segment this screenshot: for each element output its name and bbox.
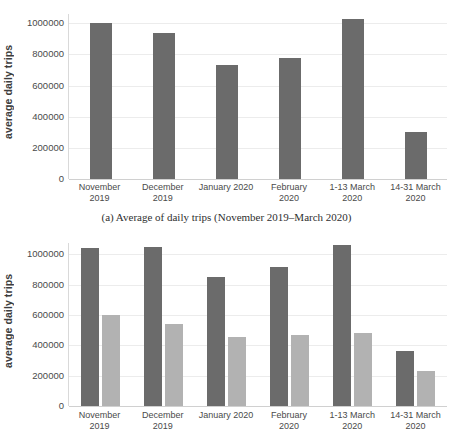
chart-b-bar (417, 371, 435, 406)
chart-a-y-tick: 600000 (32, 81, 64, 91)
chart-a-y-axis-title: average daily trips (2, 22, 18, 162)
chart-b-y-tick: 1000000 (27, 250, 64, 260)
chart-a-bar (279, 58, 301, 179)
chart-b-y-tick: 200000 (32, 371, 64, 381)
chart-b-bar (102, 315, 120, 406)
chart-b-y-tick-labels: 02000004000006000008000001000000 (18, 243, 64, 406)
chart-a-bar (216, 65, 238, 179)
chart-a-x-tick-label: 1-13 March 2020 (321, 182, 384, 204)
chart-b-bar (333, 245, 351, 406)
chart-a-y-tick: 0 (59, 174, 64, 184)
chart-b-y-tick: 0 (59, 401, 64, 411)
chart-a-gridline (69, 179, 447, 180)
chart-b-x-tick-label: 14-31 March 2020 (384, 410, 447, 432)
chart-b-bar (165, 324, 183, 406)
chart-b-bar-group (321, 243, 384, 406)
chart-a-y-tick: 400000 (32, 112, 64, 122)
chart-a-bars (69, 14, 447, 179)
chart-b-plot-area (68, 243, 447, 406)
chart-a-bar (153, 33, 175, 179)
chart-b-bar (354, 333, 372, 406)
chart-a-bar-group (321, 14, 384, 179)
chart-b-x-tick-label: 1-13 March 2020 (321, 410, 384, 432)
chart-b-y-tick: 400000 (32, 341, 64, 351)
chart-a-x-tick-label: February 2020 (258, 182, 321, 204)
chart-b-bar (291, 335, 309, 406)
chart-b-x-tick-label: December 2019 (131, 410, 194, 432)
chart-a-y-tick: 200000 (32, 143, 64, 153)
chart-a-bar (90, 23, 112, 179)
chart-b-x-tick-label: February 2020 (258, 410, 321, 432)
chart-a-x-tick-label: January 2020 (194, 182, 257, 204)
chart-a-y-tick: 1000000 (27, 19, 64, 29)
chart-a-x-tick-label: December 2019 (131, 182, 194, 204)
chart-a-bar (342, 19, 364, 179)
chart-a-bar-group (258, 14, 321, 179)
chart-b-bar (207, 277, 225, 406)
chart-b-x-tick-label: November 2019 (68, 410, 131, 432)
chart-b-bar (228, 337, 246, 406)
chart-b-bar-group (132, 243, 195, 406)
chart-b-x-tick-labels: November 2019December 2019January 2020Fe… (68, 410, 447, 432)
chart-a-plot-area (68, 14, 447, 179)
chart-b-y-axis-title: average daily trips (2, 248, 18, 393)
chart-b-bar-group (69, 243, 132, 406)
figure-caption-a: (a) Average of daily trips (November 201… (0, 211, 453, 223)
chart-b-bar-group (384, 243, 447, 406)
chart-b-bar (81, 248, 99, 406)
chart-a-bar (405, 132, 427, 179)
chart-b-y-tick: 600000 (32, 310, 64, 320)
chart-a-x-tick-label: 14-31 March 2020 (384, 182, 447, 204)
chart-a-container: average daily trips 02000004000006000008… (0, 0, 453, 207)
chart-b-bar-group (258, 243, 321, 406)
chart-b-bar-group (195, 243, 258, 406)
chart-b-gridline (69, 406, 447, 407)
chart-a-x-tick-label: November 2019 (68, 182, 131, 204)
chart-a-y-tick: 800000 (32, 50, 64, 60)
chart-a-bar-group (384, 14, 447, 179)
chart-a-bar-group (195, 14, 258, 179)
chart-b-bar (270, 267, 288, 406)
chart-b-bar (144, 247, 162, 406)
chart-b-container: average daily trips 02000004000006000008… (0, 240, 453, 427)
chart-a-y-tick-labels: 02000004000006000008000001000000 (18, 14, 64, 179)
chart-b-bar (396, 351, 414, 406)
chart-a-bar-group (132, 14, 195, 179)
chart-b-bars (69, 243, 447, 406)
chart-a-bar-group (69, 14, 132, 179)
chart-a-x-tick-labels: November 2019December 2019January 2020Fe… (68, 182, 447, 204)
chart-b-x-tick-label: January 2020 (194, 410, 257, 432)
chart-b-y-tick: 800000 (32, 280, 64, 290)
